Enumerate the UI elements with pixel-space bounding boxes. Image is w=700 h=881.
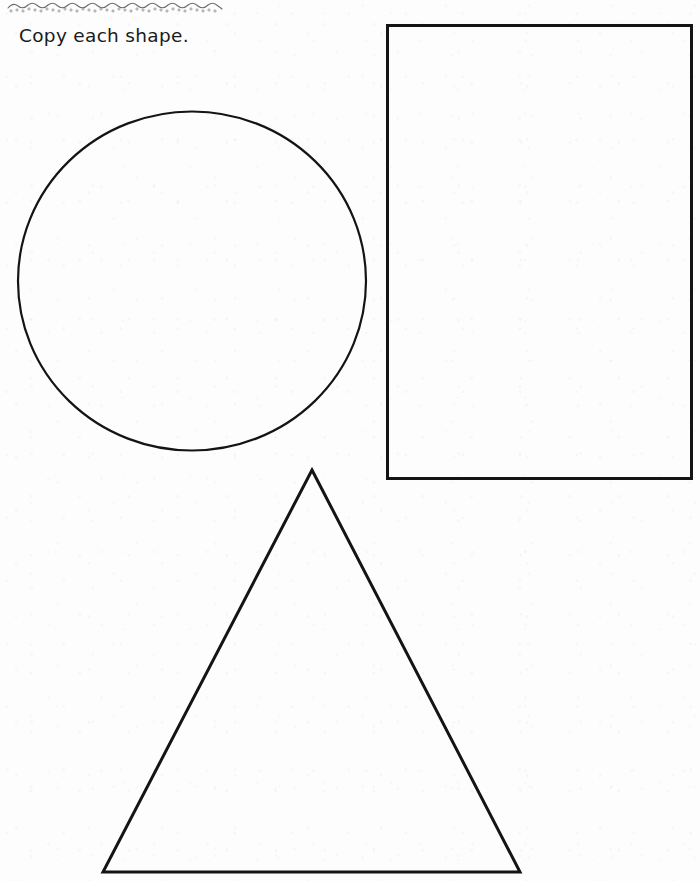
shape-rectangle [381, 19, 697, 487]
shapes-area [0, 0, 700, 881]
shape-triangle [97, 464, 527, 879]
circle-outline [18, 112, 366, 451]
rectangle-outline [388, 26, 692, 479]
triangle-outline [103, 470, 520, 872]
worksheet-page: Copy each shape. [0, 0, 700, 881]
shape-circle [10, 107, 366, 459]
